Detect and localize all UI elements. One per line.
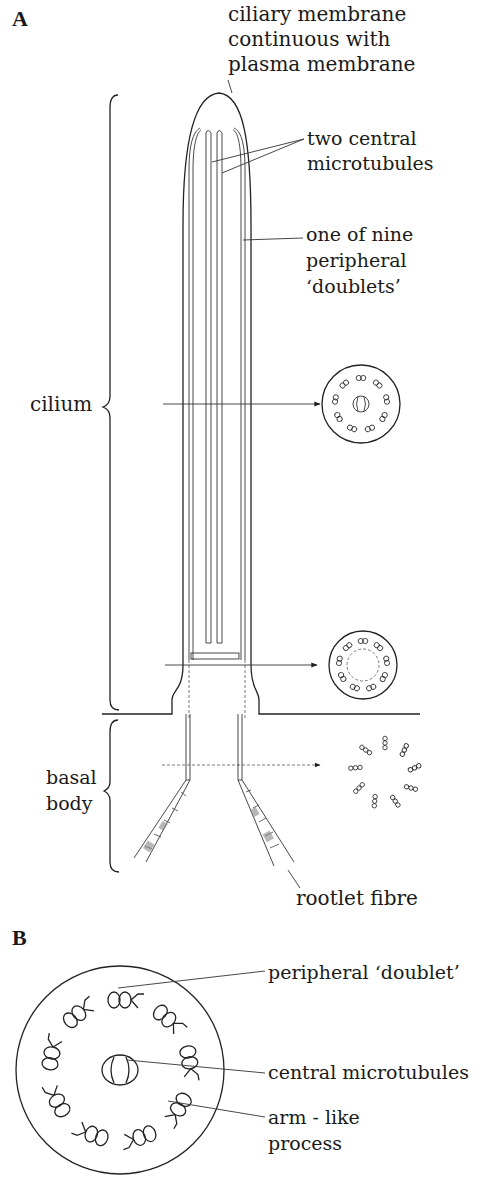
leader-central-microtubules — [127, 1060, 265, 1073]
leader-peripheral-doublet — [118, 971, 265, 988]
leader-arm-like-process — [168, 1101, 265, 1117]
cilium-diagram — [0, 0, 485, 1184]
cilium-brace — [103, 95, 119, 710]
cross-section-basal-body — [348, 736, 421, 808]
cross-section-shaft — [322, 365, 400, 443]
basal-body-brace — [104, 720, 119, 872]
rootlet-fibres — [134, 780, 300, 888]
central-microtubules-lines — [206, 131, 222, 644]
cross-section-transition — [329, 631, 397, 699]
cilium-outline — [102, 80, 420, 714]
doublets-ring — [40, 992, 201, 1152]
panel-b-cross-section — [16, 966, 224, 1174]
